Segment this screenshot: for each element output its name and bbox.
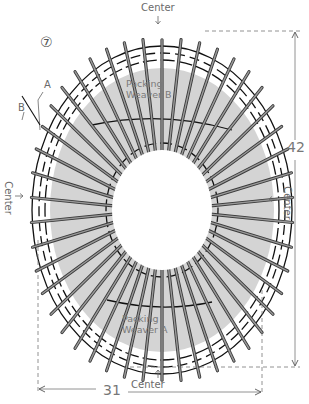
center-label-right: Center [282,186,292,220]
height-dimension-value: 42 [287,140,305,154]
weaving-diagram [0,0,309,404]
weaver-a-marker: A [44,80,51,90]
center-arrow-top-icon [156,16,161,24]
width-dimension-value: 31 [103,383,121,397]
packing-weaver-a-label: Packing Weaver A [122,313,167,335]
inner-opening [112,150,212,270]
center-label-left: Center [3,181,13,215]
packing-weaver-b-label: Packing Weaver B [126,78,171,100]
center-label-bottom: Center [131,380,165,390]
step-number-label: ⑦ [40,35,53,49]
weaver-b-marker: B [18,103,25,113]
packing-weaver-b-line2: Weaver B [126,89,171,100]
packing-weaver-b-line1: Packing [126,78,171,89]
packing-weaver-a-line2: Weaver A [122,324,167,335]
weaver-a-leader [38,92,43,130]
center-label-top: Center [141,3,175,13]
center-arrow-left-icon [15,194,23,199]
packing-weaver-a-line1: Packing [122,313,167,324]
weaver-b-leader [22,112,24,120]
